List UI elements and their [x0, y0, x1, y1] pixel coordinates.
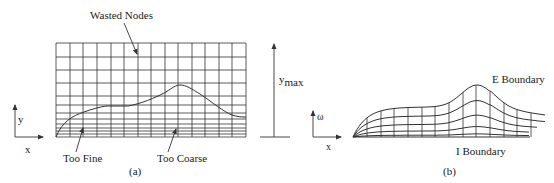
- uniform-grid: [56, 43, 246, 137]
- caption-a: (a): [129, 165, 142, 178]
- too-fine-label: Too Fine: [63, 152, 102, 164]
- e-boundary-label: E Boundary: [492, 73, 545, 85]
- panel-a: y x Wasted Nodes Too Fine Too Coarse (a)…: [15, 9, 304, 178]
- axes-a: y x: [15, 105, 43, 155]
- caption-b: (b): [443, 165, 456, 178]
- figure-canvas: y x Wasted Nodes Too Fine Too Coarse (a)…: [0, 0, 554, 183]
- wasted-nodes-arrow-icon: [124, 23, 137, 54]
- panel-b: ω x E Boundary I Boundary (b): [313, 73, 545, 178]
- too-coarse-arrow-icon: [168, 129, 176, 152]
- too-fine-arrow-icon: [76, 128, 83, 152]
- wasted-nodes-label: Wasted Nodes: [90, 9, 153, 21]
- x-axis-label: x: [25, 143, 31, 155]
- x-axis-label-b: x: [326, 141, 331, 152]
- i-boundary-label: I Boundary: [456, 145, 506, 157]
- too-coarse-label: Too Coarse: [157, 152, 207, 164]
- ymax-label: ymax: [279, 73, 304, 88]
- boundary-fitted-grid: [353, 85, 545, 137]
- omega-axis-label: ω: [317, 111, 324, 122]
- axes-b: ω x: [313, 111, 341, 152]
- y-axis-label: y: [18, 113, 24, 125]
- ymax-indicator: ymax: [260, 44, 304, 137]
